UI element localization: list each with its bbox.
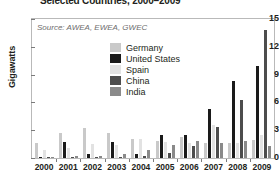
source-note: Source: AWEA, EWEA, GWEC (37, 23, 147, 32)
legend-swatch-icon (110, 43, 121, 52)
x-tick-mark (250, 159, 251, 162)
x-tick-label: 2009 (248, 162, 276, 172)
x-tick-mark (177, 159, 178, 162)
bar (256, 66, 259, 158)
bar (228, 143, 231, 158)
bar (168, 153, 171, 158)
bar (35, 143, 38, 158)
bar (111, 142, 114, 158)
bar (39, 157, 42, 158)
bar (119, 157, 122, 158)
bar (156, 141, 159, 158)
bar (99, 156, 102, 158)
wind-capacity-chart: Selected Countries, 2000–2009 Gigawatts … (0, 0, 279, 182)
bar (43, 150, 46, 158)
legend-swatch-icon (110, 54, 121, 63)
bar (135, 154, 138, 158)
bar (131, 139, 134, 158)
bar (184, 135, 187, 158)
bar (160, 135, 163, 158)
x-tick-mark (201, 159, 202, 162)
bar (192, 146, 195, 159)
chart-legend: GermanyUnited StatesSpainChinaIndia (110, 42, 180, 97)
bar (63, 142, 66, 158)
bar (244, 141, 247, 158)
bar (139, 139, 142, 158)
x-tick-mark (153, 159, 154, 162)
bar (212, 125, 215, 158)
x-tick-mark (80, 159, 81, 162)
x-tick-mark (105, 159, 106, 162)
x-tick-mark (56, 159, 57, 162)
bar (196, 141, 199, 158)
bar (236, 143, 239, 158)
bar (83, 128, 86, 158)
legend-item: India (110, 86, 180, 97)
legend-swatch-icon (110, 76, 121, 85)
bar (95, 157, 98, 158)
legend-item: Germany (110, 42, 180, 53)
bar (216, 127, 219, 158)
page-title: Selected Countries, 2000–2009 (40, 0, 240, 6)
bar (172, 145, 175, 158)
bar (220, 143, 223, 158)
bar (147, 150, 150, 158)
bar (143, 156, 146, 158)
legend-label: China (126, 76, 150, 86)
legend-item: China (110, 75, 180, 86)
legend-item: United States (110, 53, 180, 64)
legend-label: India (126, 87, 146, 97)
bar (252, 140, 255, 158)
bar (208, 109, 211, 158)
x-tick-mark (226, 159, 227, 162)
bar (188, 143, 191, 158)
bar (204, 143, 207, 158)
bar (115, 145, 118, 158)
bar (268, 146, 271, 158)
bar (47, 157, 50, 158)
bar (123, 154, 126, 158)
y-axis-title: Gigawatts (7, 32, 17, 102)
legend-item: Spain (110, 64, 180, 75)
legend-label: Spain (126, 65, 149, 75)
bar (51, 157, 54, 158)
bar (260, 135, 263, 158)
bar (240, 100, 243, 158)
bar (67, 148, 70, 158)
bar (164, 142, 167, 158)
bar (91, 144, 94, 158)
legend-label: United States (126, 54, 180, 64)
x-tick-mark (129, 159, 130, 162)
bar (87, 154, 90, 158)
bar (75, 156, 78, 158)
bar (107, 133, 110, 158)
bar (59, 133, 62, 158)
bar (232, 81, 235, 158)
bar (264, 30, 267, 158)
legend-label: Germany (126, 43, 163, 53)
legend-swatch-icon (110, 65, 121, 74)
legend-swatch-icon (110, 87, 121, 96)
bar (71, 157, 74, 158)
y-tick-mark (31, 158, 35, 159)
bar (180, 137, 183, 158)
